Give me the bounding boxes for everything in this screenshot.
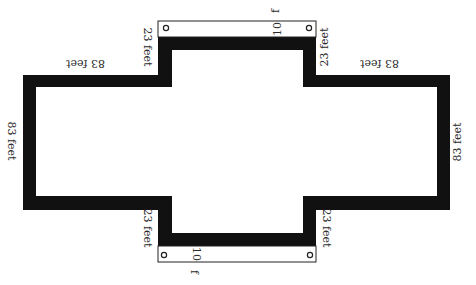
label-top-door-width: 10 [272,22,284,36]
label-top-door-unit: f [270,9,282,13]
label-top-left-length: 83 feet [66,57,105,69]
floor-plan-diagram: 83 feet 83 feet 83 feet 83 feet 23 feet … [0,0,476,285]
label-top-right-length: 83 feet [360,57,399,69]
label-bottom-door-width: 10 [190,247,202,261]
top-door [158,21,316,37]
label-notch-bottom-right: 23 feet [320,208,332,247]
label-notch-top-right: 23 feet [319,27,331,66]
bottom-door [158,246,316,262]
label-bottom-door-unit: f [188,270,200,274]
label-notch-top-left: 23 feet [141,27,153,66]
label-notch-bottom-left: 23 feet [141,208,153,247]
label-left-length: 83 feet [5,121,17,160]
floor-plan-walls [0,0,476,285]
label-right-length: 83 feet [452,122,464,161]
